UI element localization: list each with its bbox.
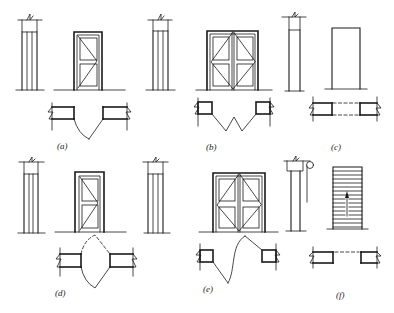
door-types-diagram: (a) (0, 0, 394, 313)
label-d: (d) (55, 288, 66, 298)
label-f: (f) (336, 290, 345, 300)
section-view-d-right (143, 157, 170, 233)
panel-c: (c) (282, 12, 381, 152)
roller-drum-icon (307, 162, 314, 169)
section-view-b (146, 14, 175, 90)
panel-e: (e) (196, 173, 280, 294)
elevation-view-d (55, 172, 126, 232)
section-view-c (282, 12, 306, 91)
panel-d: (d) (18, 157, 170, 298)
section-view-d-left (18, 157, 45, 233)
plan-view-e (196, 236, 280, 283)
elevation-view-a (54, 32, 125, 90)
label-e: (e) (203, 284, 213, 294)
label-a: (a) (57, 141, 68, 151)
section-view-a (16, 14, 44, 90)
panel-b: (b) (146, 14, 274, 152)
panel-a: (a) (16, 14, 131, 151)
plan-view-c (309, 97, 381, 121)
section-view-f (284, 156, 314, 231)
elevation-view-b (196, 31, 272, 90)
label-b: (b) (206, 142, 217, 152)
plan-view-a (48, 103, 131, 139)
label-c: (c) (331, 142, 341, 152)
plan-view-b (194, 98, 274, 131)
panel-f: (f) (284, 156, 381, 300)
plan-view-d (56, 235, 137, 288)
plan-view-f (309, 247, 381, 268)
elevation-view-e (199, 173, 278, 232)
elevation-view-f (327, 167, 368, 229)
elevation-view-c (325, 28, 367, 89)
